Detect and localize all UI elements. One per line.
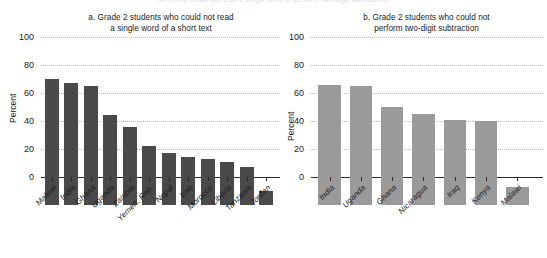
cat-label: Malawi <box>499 183 523 207</box>
panel-a-title: a. Grade 2 students who could not read a… <box>44 13 278 34</box>
panel-a-title-line1: a. Grade 2 students who could not read <box>44 13 278 24</box>
panel-a-plot: 100 80 60 40 20 <box>0 37 282 205</box>
cat-label: Iraq <box>445 183 461 199</box>
ytick-40: 40 <box>4 116 38 126</box>
cat-label: Kenya <box>470 183 493 206</box>
chart-panel-b: b. Grade 2 students who could not perfor… <box>282 5 547 258</box>
cat-label: India <box>317 183 336 202</box>
cutoff-header-text: and they could not read a single word or… <box>0 0 547 3</box>
ytick-20: 20 <box>4 144 38 154</box>
chart-panels: a. Grade 2 students who could not read a… <box>0 5 547 258</box>
chart-panel-a: a. Grade 2 students who could not read a… <box>0 5 282 258</box>
ytick-0: 0 <box>4 172 38 182</box>
cat-label: Uganda <box>341 183 368 210</box>
ytick-80: 80 <box>4 60 38 70</box>
panel-a-title-line2: a single word of a short text <box>44 24 278 35</box>
panel-b-category-labels: India Uganda Ghana Nicaragua Iraq Kenya … <box>314 181 533 241</box>
ytick-20: 20 <box>286 144 308 154</box>
panel-a-category-labels: Malawi India Ghana Uganda Zambia Yemen, … <box>42 181 276 241</box>
ytick-60: 60 <box>4 88 38 98</box>
panel-b-plot: Percent 100 80 60 40 <box>282 37 547 205</box>
panel-b-title-line1: b. Grade 2 students who could not <box>310 13 543 24</box>
ytick-80: 80 <box>286 60 308 70</box>
ytick-40: 40 <box>286 116 308 126</box>
gridline-100 <box>41 37 280 38</box>
ytick-60: 60 <box>286 88 308 98</box>
panel-b-title: b. Grade 2 students who could not perfor… <box>310 13 543 34</box>
ytick-100: 100 <box>4 32 38 42</box>
cat-label: Ghana <box>375 183 399 207</box>
gridline-100 <box>311 37 543 38</box>
ytick-0: 0 <box>286 172 308 182</box>
ytick-100: 100 <box>286 32 308 42</box>
panel-b-title-line2: perform two-digit subtraction <box>310 24 543 35</box>
